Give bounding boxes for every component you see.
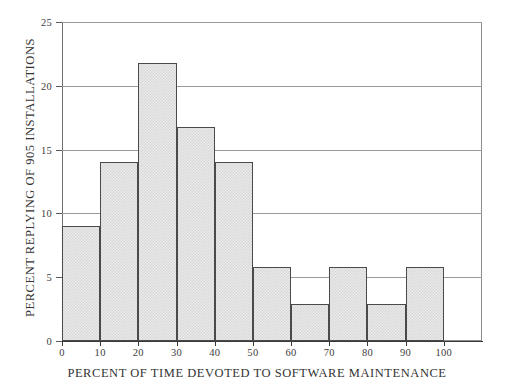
x-tick-mark xyxy=(291,341,292,346)
x-tick-mark xyxy=(177,341,178,346)
y-axis-title: PERCENT REPLYING OF 905 INSTALLATIONS xyxy=(23,18,38,338)
y-tick-mark xyxy=(56,150,62,151)
x-tick-label: 30 xyxy=(157,347,197,358)
x-tick-label: 70 xyxy=(309,347,349,358)
y-tick-mark xyxy=(56,22,62,23)
x-axis-title: PERCENT OF TIME DEVOTED TO SOFTWARE MAIN… xyxy=(0,366,514,381)
histogram-chart: 0510152025 0102030405060708090100 PERCEN… xyxy=(0,0,514,391)
histogram-bar xyxy=(138,63,176,341)
histogram-bar xyxy=(215,162,253,341)
x-tick-mark xyxy=(406,341,407,346)
histogram-bar xyxy=(329,267,367,341)
x-tick-label: 10 xyxy=(80,347,120,358)
x-tick-mark xyxy=(62,341,63,346)
histogram-bar xyxy=(100,162,138,341)
x-tick-mark xyxy=(329,341,330,346)
x-tick-mark xyxy=(367,341,368,346)
x-tick-label: 0 xyxy=(42,347,82,358)
y-tick-mark xyxy=(56,213,62,214)
x-axis-line xyxy=(62,341,483,342)
x-tick-label: 90 xyxy=(386,347,426,358)
gridline xyxy=(62,86,482,87)
x-tick-mark xyxy=(100,341,101,346)
x-tick-label: 40 xyxy=(195,347,235,358)
gridline xyxy=(62,22,482,23)
x-tick-label: 50 xyxy=(233,347,273,358)
x-tick-label: 20 xyxy=(118,347,158,358)
x-tick-label: 80 xyxy=(347,347,387,358)
x-tick-mark xyxy=(444,341,445,346)
y-tick-mark xyxy=(56,86,62,87)
x-tick-mark xyxy=(138,341,139,346)
histogram-bar xyxy=(253,267,291,341)
histogram-bar xyxy=(406,267,444,341)
histogram-bar xyxy=(177,127,215,341)
x-tick-label: 60 xyxy=(271,347,311,358)
histogram-bar xyxy=(367,304,405,341)
x-tick-label: 100 xyxy=(424,347,464,358)
histogram-bar xyxy=(291,304,329,341)
gridline xyxy=(62,150,482,151)
histogram-bar xyxy=(62,226,100,341)
x-tick-mark xyxy=(215,341,216,346)
x-tick-mark xyxy=(253,341,254,346)
